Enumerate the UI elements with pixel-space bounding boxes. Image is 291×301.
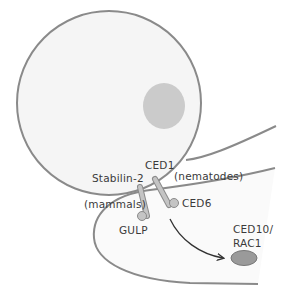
- engulfment-diagram: CED1 Stabilin-2 (nematodes) (mammals) CE…: [0, 0, 291, 301]
- adaptor-gulp-ball: [138, 212, 147, 221]
- label-nematodes: (nematodes): [174, 170, 243, 182]
- label-gulp: GULP: [119, 224, 148, 236]
- label-ced10: CED10/: [233, 223, 273, 235]
- engulfing-cell-upper-membrane: [186, 126, 276, 160]
- label-ced6: CED6: [182, 197, 212, 209]
- ced10-rac1-shape: [231, 251, 257, 266]
- nucleus: [143, 83, 185, 129]
- label-rac1: RAC1: [233, 237, 262, 249]
- label-stabilin-2: Stabilin-2: [92, 172, 144, 184]
- label-ced1: CED1: [145, 159, 175, 171]
- label-mammals: (mammals): [84, 198, 146, 210]
- adaptor-ced6-ball: [170, 199, 179, 208]
